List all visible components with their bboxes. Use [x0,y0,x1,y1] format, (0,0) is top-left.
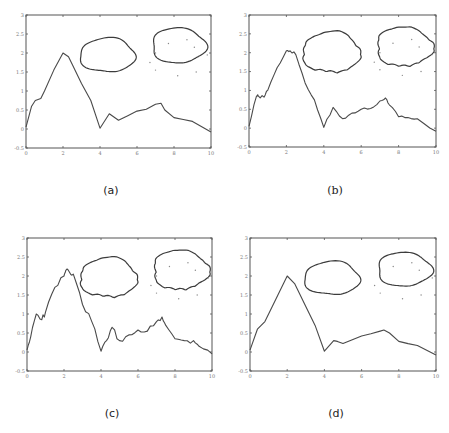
scatter-point [402,298,403,299]
plot-frame [250,238,436,371]
y-tick-label: 1 [245,311,248,317]
x-tick-label: 2 [286,373,289,379]
y-tick-label: -0.5 [238,368,248,374]
subplot-d: 0246810-0.500.511.522.53 [0,0,449,433]
x-tick-label: 10 [433,373,439,379]
scatter-point [411,262,412,263]
scatter-point [420,294,421,295]
scatter-point [393,266,394,267]
scatter-point [380,275,381,276]
y-tick-label: 2.5 [240,254,248,260]
scatter-point [374,285,375,286]
x-tick-label: 4 [323,373,326,379]
x-tick-label: 0 [248,373,251,379]
region-contour [379,252,434,286]
y-tick-label: 0 [245,349,248,355]
y-tick-label: 3 [245,235,248,241]
chart-d: 0246810-0.500.511.522.53 [0,0,449,433]
scatter-point [419,270,420,271]
x-tick-label: 8 [397,373,400,379]
y-tick-label: 0.5 [240,330,248,336]
region-contour [305,261,361,295]
x-tick-label: 6 [360,373,363,379]
y-tick-label: 1.5 [240,292,248,298]
scatter-point [432,277,433,278]
caption-d: (d) [316,407,356,420]
scatter-point [380,292,381,293]
y-tick-label: 2 [245,273,248,279]
data-curve [250,276,436,355]
